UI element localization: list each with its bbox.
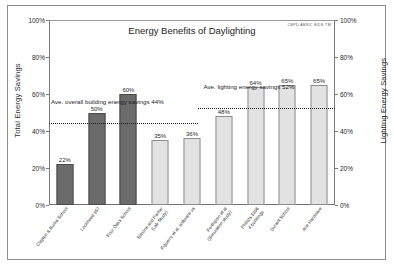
right-tick-mark (335, 131, 338, 132)
category-label-line1: Four Oaks School (106, 206, 133, 238)
y2-tick-label-60: 60% (340, 91, 353, 98)
y-tick-label-40: 40% (32, 128, 45, 135)
right-tick-mark (335, 168, 338, 169)
bar-slot: 36% (176, 20, 208, 205)
bar-figueiro-et-al[interactable] (183, 138, 200, 205)
bar-value-label: 65% (313, 78, 325, 84)
bar-value-label: 22% (59, 157, 71, 163)
bar-slot: 60% (113, 20, 145, 205)
reference-label-lighting: Ave. lighting energy savings 52% (203, 83, 294, 90)
y-tick-label-100: 100% (28, 17, 45, 24)
category-label-phillips-1996: Phillips 19964 buildings (239, 206, 264, 234)
bar-clayton-burke-school[interactable] (56, 164, 73, 205)
y-tick-label-0: 0% (36, 202, 45, 209)
bar-durant-school[interactable] (279, 85, 296, 205)
bar-simone-and-parker[interactable] (152, 140, 169, 205)
right-axis-title: Lighting Energy Savings (379, 36, 388, 166)
bar-slot: 65% (303, 20, 335, 205)
y2-tick-label-20: 20% (340, 165, 353, 172)
y2-tick-label-40: 40% (340, 128, 353, 135)
bar-slot: 48% (208, 20, 240, 205)
bar-ace-hardware[interactable] (311, 85, 328, 205)
bar-value-label: 60% (122, 87, 134, 93)
bar-lockheed-157[interactable] (88, 113, 105, 206)
bar-slot: 50% (81, 20, 113, 205)
category-label-forthgren-et-al: Forthgren et al(Simulation study) (201, 206, 233, 242)
category-label-line2 (164, 210, 196, 251)
reference-label-overall: Ave. overall building energy savings 44% (51, 98, 164, 105)
category-label-simone-and-parker: Simone and Parker(Lab Study) (136, 206, 169, 244)
bar-value-label: 48% (218, 109, 230, 115)
bar-slot: 35% (144, 20, 176, 205)
chart-figure: Total Energy Savings Lighting Energy Sav… (0, 0, 394, 267)
bar-value-label: 36% (186, 131, 198, 137)
y-tick-label-20: 20% (32, 165, 45, 172)
category-label-four-oaks-school: Four Oaks School (106, 206, 133, 239)
category-label-line1: Durant School (269, 206, 291, 232)
bar-phillips-1996[interactable] (247, 87, 264, 205)
y2-tick-label-80: 80% (340, 54, 353, 61)
left-axis-title: Total Energy Savings (13, 36, 22, 166)
category-label-line1: Ace Hardware (301, 206, 323, 232)
plot-area: Energy Benefits of Daylighting CBPD ABSI… (49, 20, 335, 205)
bar-forthgren-et-al[interactable] (215, 116, 232, 205)
y-tick-label-60: 60% (32, 91, 45, 98)
category-axis-labels: Clayton & Burke School Lockheed 157 Four… (49, 206, 335, 264)
bar-slot: 64% (240, 20, 272, 205)
reference-line-lighting (198, 108, 335, 109)
category-label-durant-school: Durant School (269, 206, 291, 232)
bar-slot: 65% (271, 20, 303, 205)
bar-value-label: 50% (91, 106, 103, 112)
category-label-lockheed-157: Lockheed 157 (79, 206, 101, 232)
y-tick-label-80: 80% (32, 54, 45, 61)
bar-four-oaks-school[interactable] (120, 94, 137, 205)
reference-line-overall (49, 123, 198, 124)
category-label-line1: Lockheed 157 (79, 206, 101, 232)
right-tick-mark (335, 94, 338, 95)
right-tick-mark (335, 57, 338, 58)
right-tick-mark (335, 205, 338, 206)
category-label-ace-hardware: Ace Hardware (301, 206, 323, 232)
bar-slot: 22% (49, 20, 81, 205)
bar-value-label: 35% (154, 133, 166, 139)
y2-tick-label-100: 100% (340, 17, 357, 24)
bars-layer: 22% 50% 60% 35% 36% 48% (49, 20, 335, 205)
y2-tick-label-0: 0% (340, 202, 349, 209)
right-tick-mark (335, 20, 338, 21)
